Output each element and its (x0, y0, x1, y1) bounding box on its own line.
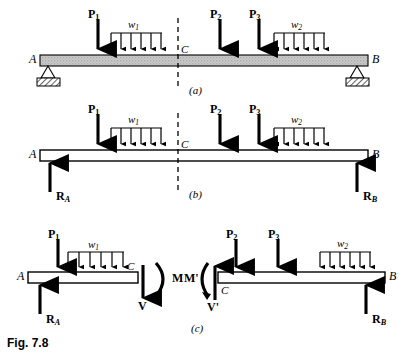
panel-label-a: (a) (189, 85, 202, 96)
moment-arc-M-panel-c (153, 263, 163, 300)
pin-support-A (37, 66, 60, 86)
panel-label-b: (b) (189, 189, 202, 200)
label-load-P2-panel-c: P2 (226, 228, 237, 242)
label-udl-w2-panel-a: w2 (291, 19, 302, 32)
label-load-P2-panel-b: P2 (210, 103, 221, 117)
label-point-A-panel-a: A (29, 53, 36, 65)
label-moment-Mprime: M' (184, 272, 199, 284)
distributed-load-w1-panel-c (68, 252, 124, 267)
label-shear-V: V (138, 300, 147, 312)
label-load-P2-panel-a: P2 (210, 8, 221, 22)
figure-caption: Fig. 7.8 (7, 337, 48, 349)
label-point-C-panel-a: C (181, 44, 188, 55)
panel-b-beam (40, 150, 368, 161)
panel-c-left-beam (28, 272, 138, 283)
moment-arc-Mprime-panel-c (202, 263, 211, 300)
distributed-load-w2-panel-b (274, 128, 325, 144)
roller-support-B (346, 66, 369, 86)
distributed-load-w2-panel-a (274, 33, 325, 49)
label-load-P3-panel-b: P3 (249, 103, 260, 117)
label-load-P1-panel-a: P1 (88, 8, 99, 22)
label-point-A-panel-b: A (29, 148, 36, 160)
label-udl-w2-panel-b: w2 (291, 114, 302, 127)
label-point-A-panel-c: A (17, 270, 24, 282)
label-point-C-panel-b: C (181, 139, 188, 150)
label-load-P1-panel-c: P1 (48, 228, 59, 242)
label-point-B-panel-c: B (389, 270, 396, 282)
label-shear-Vprime: V' (207, 301, 219, 313)
label-point-C-panel-c-left: C (127, 261, 134, 272)
label-reaction-RB-panel-b: RB (363, 190, 377, 204)
figure-7-8: A B C P1 w1 P2 P3 w2 (a) A B C P1 w1 P2 … (0, 0, 415, 358)
label-reaction-RB-panel-c: RB (372, 313, 386, 327)
distributed-load-w1-panel-a (111, 33, 162, 49)
label-point-B-panel-b: B (372, 148, 379, 160)
label-load-P1-panel-b: P1 (88, 103, 99, 117)
distributed-load-w1-panel-b (111, 128, 162, 144)
panel-label-c: (c) (191, 323, 203, 334)
label-udl-w1-panel-c: w1 (88, 239, 99, 252)
label-moment-M: M (172, 272, 183, 284)
panel-a-beam (40, 55, 368, 66)
label-reaction-RA-panel-b: RA (56, 190, 70, 204)
label-reaction-RA-panel-c: RA (46, 313, 60, 327)
label-udl-w1-panel-a: w1 (128, 19, 139, 32)
label-udl-w1-panel-b: w1 (128, 114, 139, 127)
label-load-P3-panel-a: P3 (249, 8, 260, 22)
label-point-C-panel-c-right: C (221, 285, 228, 296)
panel-c-right-beam (218, 272, 385, 283)
label-load-P3-panel-c: P3 (268, 228, 279, 242)
distributed-load-w2-panel-c (320, 252, 371, 267)
label-udl-w2-panel-c: w2 (337, 238, 348, 251)
label-point-B-panel-a: B (372, 53, 379, 65)
